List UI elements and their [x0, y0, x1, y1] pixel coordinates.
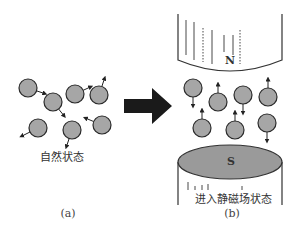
magnetic-state-label: 进入静磁场状态	[195, 190, 272, 206]
aligned-spin-particle	[209, 84, 227, 111]
natural-state-label: 自然状态	[40, 148, 84, 164]
caption-b: (b)	[224, 207, 240, 220]
panel-a-natural-state	[19, 78, 111, 147]
aligned-spin-particle	[226, 112, 244, 139]
spin-particle	[85, 116, 111, 134]
spin-particle	[22, 119, 47, 137]
spin-particle	[63, 121, 81, 147]
transition-arrow-icon	[124, 88, 172, 124]
aligned-spin-particle	[193, 110, 211, 137]
spin-particle	[19, 79, 45, 97]
aligned-spin-particle	[259, 79, 277, 106]
panel-b-magnetic-state	[184, 79, 277, 141]
spin-particle	[66, 85, 91, 103]
aligned-spin-particle	[184, 79, 202, 106]
s-pole-label: S	[227, 155, 235, 168]
spin-particle	[44, 93, 64, 116]
spin-particle	[90, 78, 108, 104]
aligned-spin-particle	[234, 86, 252, 113]
aligned-spin-particle	[258, 114, 276, 141]
n-pole-label: N	[225, 54, 235, 67]
caption-a: (a)	[60, 207, 75, 220]
